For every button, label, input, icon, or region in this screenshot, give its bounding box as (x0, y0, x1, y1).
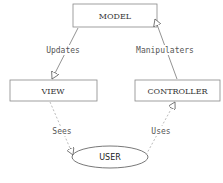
controller-node: CONTROLLER (135, 80, 220, 101)
view-node: VIEW (10, 80, 97, 101)
controller-label: CONTROLLER (147, 87, 208, 96)
edge-manipulaters: Manipulaters (136, 19, 194, 79)
user-label: USER (99, 153, 121, 162)
view-label: VIEW (41, 87, 66, 96)
edge-uses: Uses (146, 102, 175, 155)
sees-label: Sees (52, 127, 71, 136)
mvc-diagram: MODEL VIEW CONTROLLER USER Updates Manip… (0, 0, 223, 183)
uses-label: Uses (151, 127, 170, 136)
user-node: USER (72, 146, 148, 168)
edge-updates: Updates (46, 28, 80, 79)
edge-sees: Sees (50, 102, 73, 155)
model-label: MODEL (99, 12, 132, 21)
updates-label: Updates (46, 46, 80, 55)
model-node: MODEL (73, 4, 157, 27)
manipulaters-label: Manipulaters (136, 46, 194, 55)
